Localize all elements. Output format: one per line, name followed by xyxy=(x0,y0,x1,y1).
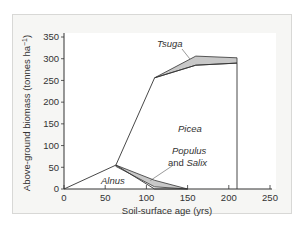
y-tick-label: 100 xyxy=(43,140,59,151)
y-tick-label: 200 xyxy=(43,96,59,107)
annotation-alnus: Alnus xyxy=(100,175,125,186)
y-axis-title: Above-ground biomass (tonnes ha−1) xyxy=(21,35,32,191)
annotation-salix: Salix xyxy=(187,157,209,168)
x-tick-label: 250 xyxy=(262,192,278,203)
annotation-and-salix: and Salix xyxy=(168,157,208,168)
y-axis-title-main: Above-ground biomass (tonnes ha xyxy=(21,45,32,191)
x-tick-label: 0 xyxy=(61,192,66,203)
chart-svg: 050100150200250050100150200250300350 Soi… xyxy=(0,0,301,241)
y-axis-title-close: ) xyxy=(21,35,32,38)
y-tick-label: 350 xyxy=(43,31,59,42)
x-tick-label: 100 xyxy=(138,192,154,203)
y-tick-label: 150 xyxy=(43,118,59,129)
annotation-tsuga: Tsuga xyxy=(157,38,183,49)
x-tick-label: 150 xyxy=(180,192,196,203)
y-axis-title-superscript: −1 xyxy=(21,38,28,46)
y-tick-label: 50 xyxy=(48,162,59,173)
x-axis-title: Soil-surface age (yrs) xyxy=(122,205,212,216)
y-tick-label: 250 xyxy=(43,75,59,86)
y-tick-label: 300 xyxy=(43,53,59,64)
annotation-picea: Picea xyxy=(178,123,202,134)
annotation-populus: Populus xyxy=(172,145,207,156)
x-tick-label: 200 xyxy=(221,192,237,203)
x-tick-label: 50 xyxy=(100,192,111,203)
annotation-and: and xyxy=(168,157,184,168)
y-tick-label: 0 xyxy=(54,183,59,194)
